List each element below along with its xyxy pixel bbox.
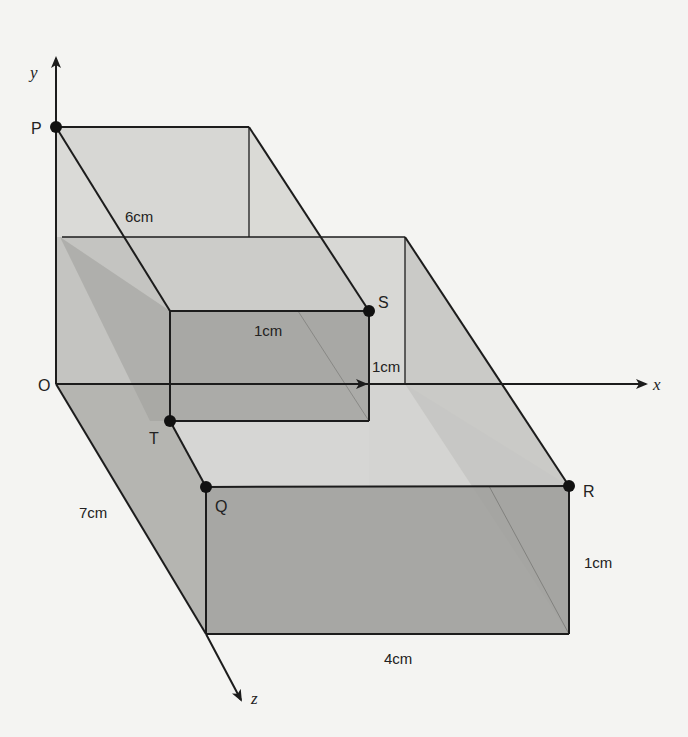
point-S	[363, 305, 375, 317]
dim-step-height: 1cm	[372, 358, 400, 375]
point-P	[50, 121, 62, 133]
dim-front-width: 4cm	[384, 650, 412, 667]
edge	[206, 486, 569, 487]
point-R	[563, 480, 575, 492]
dim-top-depth: 6cm	[125, 208, 153, 225]
label-P: P	[31, 120, 42, 137]
front-face	[206, 486, 569, 634]
origin-label: O	[38, 377, 50, 394]
point-Q	[200, 481, 212, 493]
diagram-canvas: y x z O P S T Q R 6cm 1cm 1cm 7cm 1cm 4c…	[0, 0, 688, 737]
z-axis	[206, 634, 241, 700]
z-axis-label: z	[250, 689, 258, 708]
label-S: S	[378, 294, 389, 311]
dim-front-height: 1cm	[584, 554, 612, 571]
y-axis-label: y	[28, 63, 38, 82]
label-T: T	[149, 430, 159, 447]
label-Q: Q	[215, 498, 227, 515]
label-R: R	[583, 483, 595, 500]
point-T	[164, 415, 176, 427]
dim-step-width: 1cm	[254, 322, 282, 339]
x-axis-label: x	[652, 375, 661, 394]
prism-faces	[56, 127, 569, 634]
dim-base-depth: 7cm	[79, 504, 107, 521]
